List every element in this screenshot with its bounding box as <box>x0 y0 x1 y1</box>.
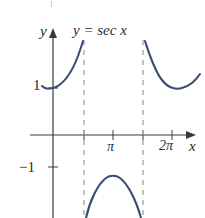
x-tick-label-pi: π <box>107 140 114 154</box>
y-tick-label-one: 1 <box>33 78 41 93</box>
equation-label: y = sec x <box>73 23 127 38</box>
x-axis-label: x <box>189 139 196 154</box>
y-tick-label-negative-one: −1 <box>19 160 35 175</box>
sec-branch-right <box>145 41 200 89</box>
y-axis-label: y <box>40 24 47 39</box>
sec-x-graph-figure: y x y = sec x 1 −1 π 2π <box>0 0 205 218</box>
sec-branch-left <box>42 41 83 89</box>
x-tick-label-two-pi: 2π <box>159 139 173 153</box>
sec-branch-bottom <box>86 176 141 218</box>
y-axis-arrowhead <box>49 28 57 38</box>
